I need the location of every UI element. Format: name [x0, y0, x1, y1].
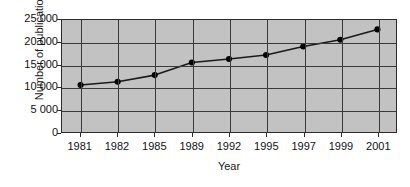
- x-tick-mark: [304, 133, 305, 137]
- y-tick-label: 0: [14, 127, 58, 138]
- y-tick-mark: [57, 65, 61, 66]
- gridline-vertical: [230, 20, 231, 132]
- y-tick-mark: [57, 133, 61, 134]
- chart-figure: Number of publications 05 00010 00015 00…: [0, 0, 410, 187]
- y-tick-mark: [57, 19, 61, 20]
- y-tick-label: 10 000: [14, 81, 58, 92]
- x-tick-mark: [192, 133, 193, 137]
- y-tick-label: 15 000: [14, 59, 58, 70]
- x-tick-mark: [378, 133, 379, 137]
- gridline-vertical: [193, 20, 194, 132]
- y-tick-label: 20 000: [14, 36, 58, 47]
- plot-area: 1981: 105001982: 112001985: 127001989: 1…: [61, 19, 397, 133]
- y-tick-mark: [57, 110, 61, 111]
- gridline-vertical: [379, 20, 380, 132]
- x-axis-tick-labels: 198119821985198919921995199719992001: [0, 140, 410, 156]
- gridline-vertical: [305, 20, 306, 132]
- gridline-vertical: [81, 20, 82, 132]
- y-tick-mark: [57, 87, 61, 88]
- gridline-vertical: [118, 20, 119, 132]
- gridline-vertical: [267, 20, 268, 132]
- x-tick-mark: [266, 133, 267, 137]
- gridline-horizontal: [62, 66, 396, 67]
- x-tick-mark: [117, 133, 118, 137]
- gridline-vertical: [342, 20, 343, 132]
- data-point-marker: 1992: 16300: [226, 56, 232, 62]
- data-point-marker: 1989: 15500: [189, 60, 195, 66]
- y-tick-mark: [57, 42, 61, 43]
- x-tick-mark: [341, 133, 342, 137]
- x-tick-mark: [80, 133, 81, 137]
- y-tick-label: 25 000: [14, 13, 58, 24]
- x-tick-mark: [154, 133, 155, 137]
- gridline-horizontal: [62, 43, 396, 44]
- line-series: 1981: 105001982: 112001985: 127001989: 1…: [62, 20, 396, 132]
- gridline-horizontal: [62, 88, 396, 89]
- gridline-vertical: [155, 20, 156, 132]
- gridline-horizontal: [62, 111, 396, 112]
- x-tick-label: 2001: [353, 140, 403, 153]
- x-tick-mark: [229, 133, 230, 137]
- x-axis-title: Year: [61, 160, 397, 173]
- y-axis-tick-labels: 05 00010 00015 00020 00025 000: [14, 12, 58, 140]
- y-tick-label: 5 000: [14, 104, 58, 115]
